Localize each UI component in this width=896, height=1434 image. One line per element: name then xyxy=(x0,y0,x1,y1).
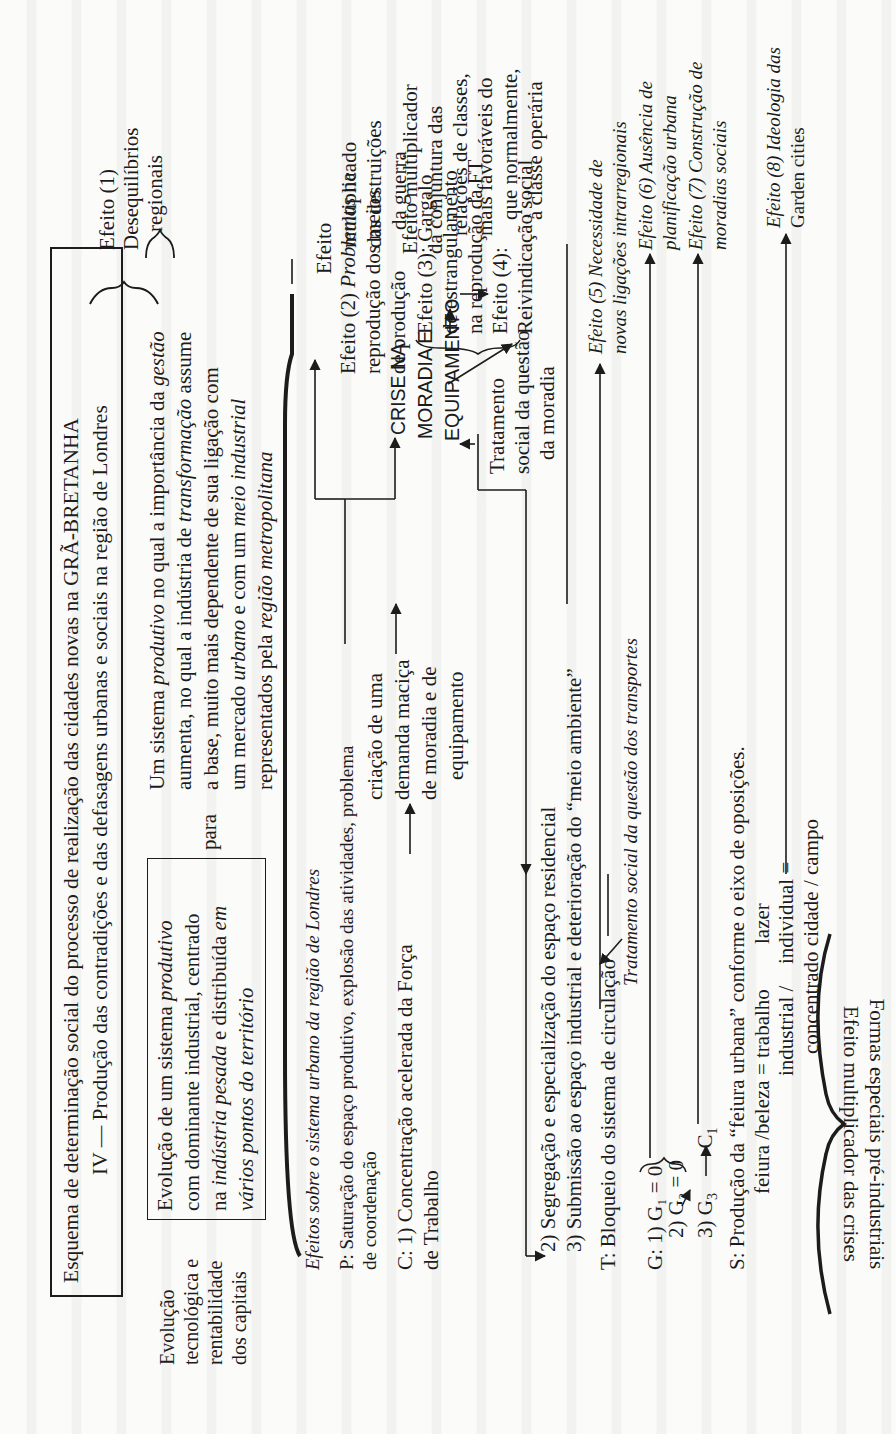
brace-effects-3-4 xyxy=(416,340,520,354)
arrow-g2-to-g3 xyxy=(682,1190,690,1206)
diagram-connectors xyxy=(0,0,896,1434)
arrow-transport-to-t xyxy=(600,939,622,964)
brace-effect-1 xyxy=(90,282,158,304)
diagram-rotated-stage: Esquema de determinação social do proces… xyxy=(0,0,896,1434)
brace-system-block xyxy=(146,230,174,258)
brace-g xyxy=(640,1158,686,1172)
brace-bottom xyxy=(818,934,844,1314)
curve-divider xyxy=(285,294,300,1256)
arrow-equipment-to-effect4 xyxy=(448,344,512,384)
